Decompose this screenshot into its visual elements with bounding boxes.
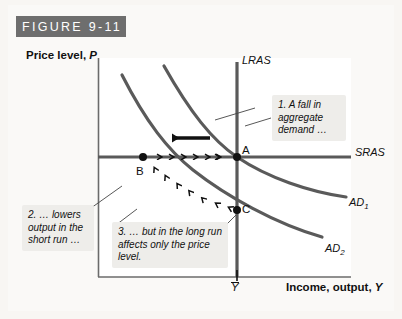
y-bar-symbol: Y	[231, 281, 239, 293]
y-axis-label-text: Price level,	[26, 49, 89, 61]
ad2-label: AD2	[325, 242, 345, 257]
ad1-label: AD1	[349, 196, 369, 211]
ad1-label-subscript: 1	[364, 202, 368, 211]
x-axis-label-text: Income, output,	[286, 281, 375, 293]
x-axis-label: Income, output, Y	[286, 281, 382, 293]
point-c-label: C	[242, 203, 250, 215]
y-axis-label: Price level, P	[26, 49, 97, 61]
annotation-note-1: 1. A fall in aggregate demand …	[272, 95, 346, 141]
annotation-note-2: 2. … lowers output in the short run …	[22, 205, 94, 251]
point-a-label: A	[242, 144, 250, 156]
lras-label: LRAS	[242, 54, 271, 66]
figure-page: FIGURE 9-11 Price level, P Income, outpu…	[0, 0, 402, 319]
x-axis-label-symbol: Y	[375, 281, 383, 293]
ad1-label-text: AD	[349, 196, 364, 208]
sras-label: SRAS	[355, 146, 385, 158]
y-axis-label-symbol: P	[89, 49, 97, 61]
ad2-label-text: AD	[325, 242, 340, 254]
x-axis-tick-label: Y	[231, 281, 239, 293]
figure-header-label: FIGURE 9-11	[20, 20, 122, 34]
figure-header-bar: FIGURE 9-11	[16, 16, 126, 37]
annotation-note-3: 3. … but in the long run affects only th…	[112, 222, 228, 268]
point-b-label: B	[136, 165, 144, 177]
ad2-label-subscript: 2	[340, 248, 344, 257]
